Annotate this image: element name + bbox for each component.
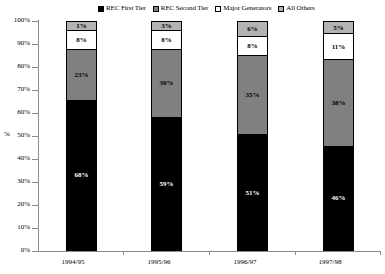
y-axis-tick: 30% [32,182,38,183]
bar-segment-rec-second-tier[interactable]: 30% [151,49,182,118]
y-axis-tick-label: 90% [17,39,30,48]
bar-segment-label: 38% [332,99,346,107]
legend-item-label: REC Second Tier [161,4,209,13]
bar-segment-rec-first-tier[interactable]: 59% [151,117,182,251]
y-axis-tick-label: 50% [17,131,30,140]
bar-segment-label: 6% [247,25,258,33]
bar-segment-rec-second-tier[interactable]: 38% [323,59,354,147]
bar-segment-all-others[interactable]: 6% [237,21,268,37]
bar-group-1996-97[interactable]: 6% 8% 35% 51% [237,21,268,251]
legend-swatch-icon [215,6,221,12]
bar-segment-label: 8% [247,42,258,50]
bar-segment-label: 5% [333,24,344,32]
y-axis-tick-label: 60% [17,108,30,117]
legend-swatch-icon [153,6,159,12]
bar-segment-label: 68% [75,171,89,179]
legend-item-major-generators: Major Generators [215,4,271,13]
bar-segment-rec-second-tier[interactable]: 23% [66,49,97,101]
legend-swatch-icon [278,6,284,12]
bar-segment-label: 3% [161,22,172,30]
bar-segment-label: 11% [332,43,346,51]
bar-segment-rec-first-tier[interactable]: 68% [66,100,97,251]
y-axis-tick: 60% [32,113,38,114]
bar-segment-label: 59% [160,180,174,188]
legend-swatch-icon [98,6,104,12]
bar-segment-rec-first-tier[interactable]: 51% [237,134,268,251]
x-axis-tick [295,251,296,255]
y-axis-tick: 20% [32,205,38,206]
x-axis-tick [209,251,210,255]
y-axis-tick-label: 10% [17,223,30,232]
y-axis-tick: 90% [32,44,38,45]
y-axis-tick: 50% [32,136,38,137]
chart-legend: REC First Tier REC Second Tier Major Gen… [98,3,315,14]
y-axis-line [38,20,39,252]
y-axis-tick: 80% [32,67,38,68]
y-axis-tick: 0% [32,251,38,252]
y-axis-tick-label: 40% [17,154,30,163]
x-axis-tick [380,251,381,255]
x-axis-label-1994-95: 1994/95 [43,258,103,267]
bar-segment-label: 35% [246,91,260,99]
legend-item-label: Major Generators [223,4,271,13]
legend-item-label: REC First Tier [106,4,146,13]
x-axis-label-1997-98: 1997/98 [300,258,360,267]
bar-segment-label: 51% [246,189,260,197]
bar-segment-label: 8% [76,36,87,44]
stacked-bar-chart: REC First Tier REC Second Tier Major Gen… [0,0,385,274]
bar-segment-label: 8% [161,36,172,44]
bar-segment-label: 46% [332,194,346,202]
x-axis-label-1995-96: 1995/96 [129,258,189,267]
y-axis-tick: 100% [32,21,38,22]
bar-group-1995-96[interactable]: 3% 8% 30% 59% [151,21,182,251]
bar-group-1994-95[interactable]: 1% 8% 23% 68% [66,21,97,251]
bar-segment-label: 1% [76,22,87,30]
bar-segment-label: 23% [75,71,89,79]
bar-segment-all-others[interactable]: 5% [323,21,354,34]
bar-segment-major-generators[interactable]: 8% [66,30,97,50]
y-axis-tick-label: 70% [17,85,30,94]
legend-item-all-others: All Others [278,4,314,13]
x-axis-tick [123,251,124,255]
bar-segment-label: 30% [160,79,174,87]
y-axis-tick-label: 20% [17,200,30,209]
y-axis-tick-label: 0% [21,246,30,255]
bar-segment-rec-second-tier[interactable]: 35% [237,55,268,136]
y-axis-tick: 70% [32,90,38,91]
x-axis-label-1996-97: 1996/97 [215,258,275,267]
legend-item-rec-first-tier: REC First Tier [98,4,146,13]
y-axis-tick-label: 100% [14,16,30,25]
y-axis-tick-label: 80% [17,62,30,71]
plot-area: 100% 90% 80% 70% 60% 50% 40% 30% 20% 10%… [38,20,381,252]
legend-item-rec-second-tier: REC Second Tier [153,4,209,13]
y-axis-tick: 10% [32,228,38,229]
bar-segment-major-generators[interactable]: 11% [323,33,354,60]
y-axis-title: % [4,130,10,139]
bar-segment-rec-first-tier[interactable]: 46% [323,146,354,252]
y-axis-tick: 40% [32,159,38,160]
legend-item-label: All Others [286,4,314,13]
bar-group-1997-98[interactable]: 5% 11% 38% 46% [323,21,354,251]
bar-segment-major-generators[interactable]: 8% [151,30,182,50]
y-axis-tick-label: 30% [17,177,30,186]
bar-segment-major-generators[interactable]: 8% [237,36,268,56]
